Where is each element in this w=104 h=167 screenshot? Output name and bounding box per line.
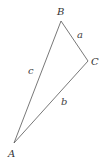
side-label-a: a (77, 29, 83, 40)
vertex-label-c: C (91, 56, 99, 67)
side-b-line (14, 61, 88, 143)
triangle-diagram: A B C a b c (0, 0, 104, 167)
side-a-line (61, 21, 88, 61)
side-label-b: b (61, 96, 67, 107)
vertex-label-b: B (56, 6, 64, 17)
side-label-c: c (28, 65, 34, 76)
side-c-line (14, 21, 61, 143)
vertex-label-a: A (7, 148, 15, 159)
